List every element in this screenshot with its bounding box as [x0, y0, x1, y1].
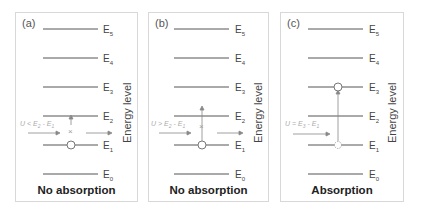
svg-text:E1: E1 [235, 140, 246, 153]
svg-text:E1: E1 [103, 140, 114, 153]
svg-text:E2: E2 [369, 111, 380, 124]
panel-c: (c) E5 E4 E3 E2 E1 E0 U = E3 - E1 Energy… [280, 12, 404, 202]
svg-text:U < E2 - E1: U < E2 - E1 [20, 120, 54, 129]
svg-text:×: × [199, 122, 204, 131]
svg-text:E5: E5 [235, 24, 246, 37]
svg-text:U > E2 - E1: U > E2 - E1 [151, 120, 185, 129]
panel-a: (a) E5 E4 E3 E2 E1 E0 U < E2 - E1 × Ener… [15, 12, 138, 202]
svg-text:E0: E0 [235, 169, 246, 182]
svg-text:E0: E0 [103, 169, 114, 182]
svg-text:E0: E0 [369, 169, 380, 182]
svg-text:E4: E4 [369, 53, 380, 66]
svg-text:E4: E4 [103, 53, 114, 66]
svg-text:U = E3 - E1: U = E3 - E1 [285, 120, 319, 129]
svg-text:E3: E3 [103, 82, 114, 95]
svg-text:E4: E4 [235, 53, 246, 66]
svg-text:E5: E5 [369, 24, 380, 37]
svg-text:E2: E2 [235, 111, 246, 124]
axis-label: Energy level [121, 82, 133, 143]
axis-label: Energy level [386, 82, 398, 143]
svg-text:E3: E3 [369, 82, 380, 95]
axis-label: Energy level [252, 82, 264, 143]
svg-text:E3: E3 [235, 82, 246, 95]
svg-text:×: × [68, 127, 73, 136]
panel-caption: No absorption [149, 184, 268, 196]
panel-b: (b) E5 E4 E3 E2 E1 E0 U > E2 - E1 × Ener… [148, 12, 269, 202]
panel-caption: No absorption [16, 184, 137, 196]
svg-text:E5: E5 [103, 24, 114, 37]
svg-text:E2: E2 [103, 111, 114, 124]
panel-caption: Absorption [281, 184, 403, 196]
svg-text:E1: E1 [369, 140, 380, 153]
